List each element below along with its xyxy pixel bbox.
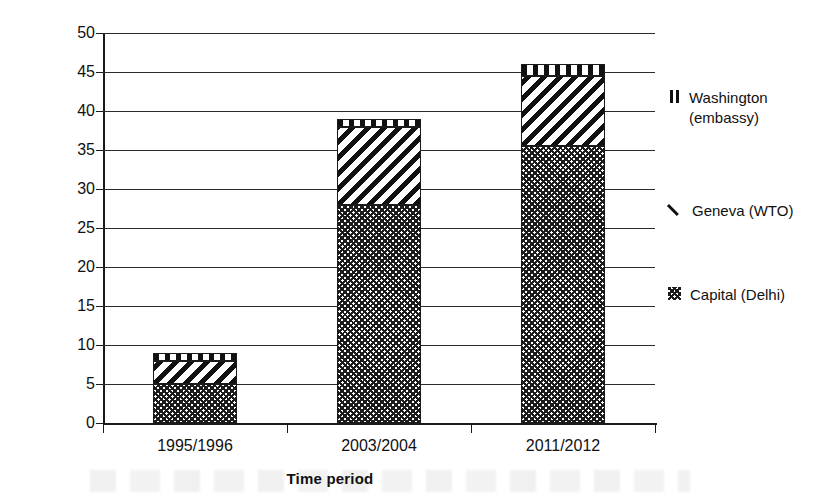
- bar-segment-capital[interactable]: [521, 146, 605, 423]
- legend-label: Washington (embassy): [689, 88, 768, 127]
- gridline: [103, 423, 655, 425]
- legend-entry[interactable]: Washington (embassy): [668, 88, 768, 127]
- y-axis-tick-mark: [96, 384, 103, 385]
- legend-entry[interactable]: Geneva (WTO): [668, 201, 793, 221]
- y-axis-tick-mark: [96, 72, 103, 73]
- legend-label: Geneva (WTO): [692, 201, 793, 221]
- y-axis-tick-label: 15: [53, 298, 95, 314]
- bar-group[interactable]: [521, 64, 605, 423]
- x-axis-tick-mark: [287, 425, 288, 433]
- y-axis-tick-label: 10: [53, 337, 95, 353]
- y-axis-tick-label: 40: [53, 103, 95, 119]
- legend-swatch-washington-icon: [670, 90, 680, 103]
- gridline: [103, 33, 655, 34]
- y-axis-tick-label: 50: [53, 25, 95, 41]
- legend-label: Capital (Delhi): [690, 285, 785, 305]
- legend-swatch-geneva-icon: [668, 203, 683, 218]
- y-axis-tick-labels: 05101520253035404550: [45, 33, 95, 425]
- y-axis-tick-mark: [96, 33, 103, 34]
- y-axis-tick-label: 20: [53, 259, 95, 275]
- y-axis-tick-mark: [96, 423, 103, 424]
- y-axis-tick-label: 5: [53, 376, 95, 392]
- plot-area: 1995/19962003/20042011/2012: [103, 33, 655, 425]
- y-axis-tick-label: 45: [53, 64, 95, 80]
- legend-entry[interactable]: Capital (Delhi): [668, 285, 785, 305]
- y-axis-line: [103, 33, 105, 425]
- y-axis-tick-mark: [96, 228, 103, 229]
- x-axis-tick-label: 2003/2004: [299, 437, 459, 455]
- bar-segment-capital[interactable]: [337, 205, 421, 423]
- bar-segment-capital[interactable]: [153, 384, 237, 423]
- x-axis-tick-mark: [655, 425, 656, 433]
- chart-figure: Number of Staff 05101520253035404550 199…: [0, 0, 823, 503]
- x-axis-tick-mark: [103, 425, 104, 433]
- y-axis-tick-label: 25: [53, 220, 95, 236]
- x-axis-title: Time period: [0, 470, 660, 487]
- y-axis-tick-mark: [96, 111, 103, 112]
- bar-segment-washington[interactable]: [153, 353, 237, 361]
- y-axis-tick-mark: [96, 306, 103, 307]
- bar-segment-geneva[interactable]: [521, 76, 605, 146]
- y-axis-tick-mark: [96, 150, 103, 151]
- y-axis-tick-label: 30: [53, 181, 95, 197]
- y-axis-tick-label: 0: [53, 415, 95, 431]
- bar-segment-geneva[interactable]: [337, 127, 421, 205]
- y-axis-tick-mark: [96, 267, 103, 268]
- legend-swatch-capital-icon: [668, 287, 681, 300]
- y-axis-tick-mark: [96, 189, 103, 190]
- x-axis-tick-label: 1995/1996: [115, 437, 275, 455]
- bar-segment-washington[interactable]: [337, 119, 421, 127]
- bar-segment-washington[interactable]: [521, 64, 605, 76]
- bar-group[interactable]: [153, 353, 237, 423]
- bar-group[interactable]: [337, 119, 421, 423]
- bar-segment-geneva[interactable]: [153, 361, 237, 384]
- x-axis-tick-mark: [471, 425, 472, 433]
- y-axis-tick-label: 35: [53, 142, 95, 158]
- y-axis-tick-mark: [96, 345, 103, 346]
- x-axis-tick-label: 2011/2012: [483, 437, 643, 455]
